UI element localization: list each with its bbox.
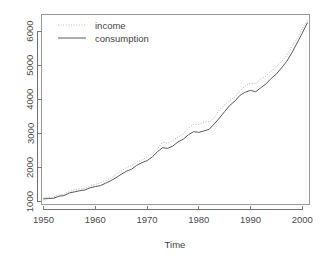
x-tick-label: 1950 xyxy=(33,214,54,225)
x-tick-label: 1990 xyxy=(240,214,261,225)
y-tick-label: 2000 xyxy=(25,157,36,178)
y-tick-label: 3000 xyxy=(25,123,36,144)
y-tick-label: 5000 xyxy=(25,55,36,76)
x-axis: 195019601970198019902000 xyxy=(33,206,313,226)
x-tick-label: 1980 xyxy=(188,214,209,225)
x-tick-label: 1960 xyxy=(85,214,106,225)
legend-label-consumption: consumption xyxy=(95,33,149,44)
y-tick-label: 6000 xyxy=(25,20,36,41)
x-axis-title: Time xyxy=(165,239,186,250)
series-line-consumption xyxy=(44,23,308,199)
income-consumption-line-chart: 100020003000400050006000 195019601970198… xyxy=(0,0,331,267)
plot-area-border xyxy=(42,15,310,205)
y-tick-label: 1000 xyxy=(25,191,36,212)
legend-label-income: income xyxy=(95,20,126,31)
x-tick-label: 2000 xyxy=(292,214,313,225)
chart-legend: income consumption xyxy=(58,20,149,44)
data-series-layer xyxy=(44,20,308,199)
y-tick-label: 4000 xyxy=(25,89,36,110)
series-line-income xyxy=(44,20,308,198)
y-axis: 100020003000400050006000 xyxy=(25,20,42,212)
x-tick-label: 1970 xyxy=(136,214,157,225)
chart-figure: 100020003000400050006000 195019601970198… xyxy=(0,0,331,267)
